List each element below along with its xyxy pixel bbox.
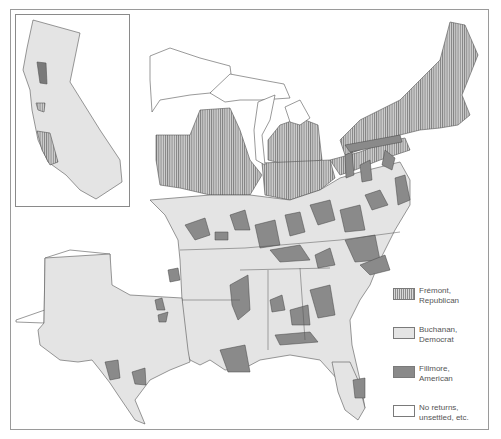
legend-item-republican: Frémont, Republican	[393, 286, 493, 314]
california-inset-frame	[15, 14, 130, 207]
legend-label-line1: Buchanan,	[419, 325, 457, 335]
no-returns-swatch	[393, 405, 415, 417]
legend-label-line1: No returns,	[419, 403, 469, 413]
legend-label-line2: unsettled, etc.	[419, 413, 469, 423]
legend-label-line2: Democrat	[419, 335, 457, 345]
legend: Frémont, Republican Buchanan, Democrat F…	[393, 286, 493, 439]
democrat-swatch	[393, 327, 415, 339]
american-swatch	[393, 366, 415, 378]
legend-label-line1: Fillmore,	[419, 364, 453, 374]
legend-item-no-returns: No returns, unsettled, etc.	[393, 403, 493, 431]
republican-regions	[156, 22, 478, 200]
republican-swatch	[393, 288, 415, 300]
legend-label-line2: American	[419, 374, 453, 384]
legend-item-democrat: Buchanan, Democrat	[393, 325, 493, 353]
legend-label-line2: Republican	[419, 296, 459, 306]
legend-item-american: Fillmore, American	[393, 364, 493, 392]
legend-label-line1: Frémont,	[419, 286, 459, 296]
